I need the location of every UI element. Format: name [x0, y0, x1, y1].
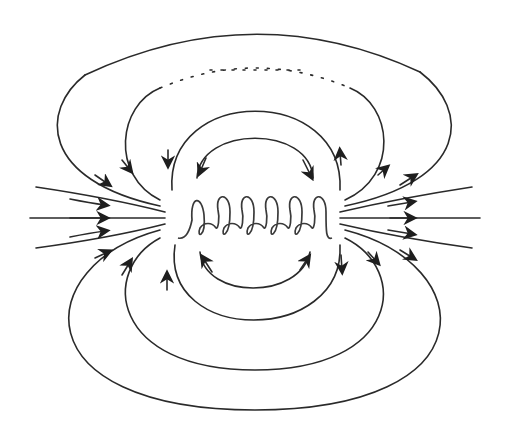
axial-field-lines-left	[30, 187, 165, 248]
solenoid-field-diagram	[0, 0, 505, 432]
axial-field-lines-right	[340, 187, 480, 248]
upper-field-loops	[57, 34, 451, 206]
lower-field-loops	[69, 230, 441, 410]
solenoid-coil	[178, 197, 332, 239]
